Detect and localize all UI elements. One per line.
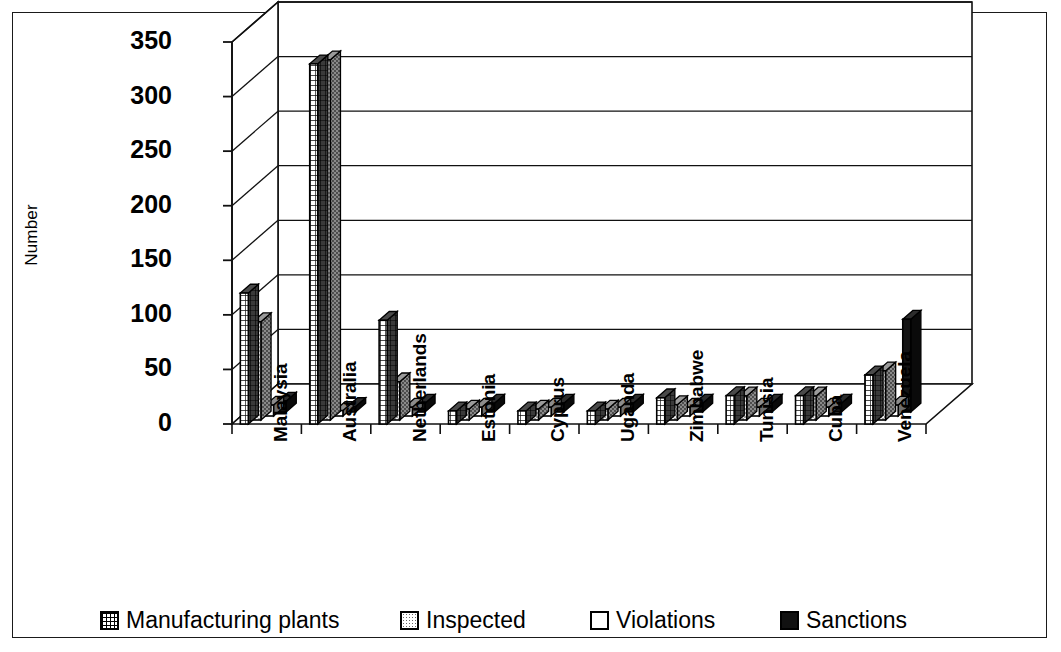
y-tick-label-250: 250 — [108, 137, 172, 162]
y-axis-title: Number — [22, 175, 42, 295]
chart-figure: 050100150200250300350 Number MalaysiaAus… — [0, 0, 1061, 652]
y-tick-label-0: 0 — [108, 410, 172, 435]
y-axis-ticks: 050100150200250300350 — [100, 0, 172, 652]
x-label-zimbabwe: Zimbabwe — [686, 350, 708, 442]
legend-swatch-black-icon — [780, 611, 799, 630]
y-axis-line — [223, 42, 232, 424]
legend-label: Manufacturing plants — [126, 609, 340, 632]
y-tick-label-100: 100 — [108, 301, 172, 326]
legend-item-sanctions[interactable]: Sanctions — [780, 604, 907, 636]
x-label-australia: Australia — [339, 362, 361, 442]
bar-manufacturing-plants-netherlands — [379, 312, 397, 424]
x-label-netherlands: Netherlands — [409, 333, 431, 442]
x-label-estonia: Estonia — [478, 374, 500, 442]
y-tick-label-300: 300 — [108, 83, 172, 108]
bar-manufacturing-plants-cuba — [796, 387, 814, 424]
x-label-cuba: Cuba — [825, 395, 847, 442]
y-tick-label-350: 350 — [108, 28, 172, 53]
y-tick-label-200: 200 — [108, 192, 172, 217]
y-tick-label-50: 50 — [108, 355, 172, 380]
bar-manufacturing-plants-tunisia — [726, 387, 744, 424]
x-label-tunisia: Tunisia — [756, 378, 778, 442]
legend-swatch-grid-icon — [100, 611, 119, 630]
legend-item-manufacturing-plants[interactable]: Manufacturing plants — [100, 604, 340, 636]
bar-manufacturing-plants-venezuela — [865, 366, 883, 424]
legend-label: Sanctions — [806, 609, 907, 632]
x-axis-ticks — [232, 424, 926, 434]
legend-label: Violations — [616, 609, 715, 632]
chart-legend: Manufacturing plantsInspectedViolationsS… — [100, 604, 960, 640]
legend-item-inspected[interactable]: Inspected — [400, 604, 526, 636]
x-label-cyprus: Cyprus — [547, 377, 569, 442]
x-label-malaysia: Malaysia — [270, 364, 292, 442]
bar-manufacturing-plants-malaysia — [240, 284, 258, 424]
legend-swatch-dots-icon — [400, 611, 419, 630]
legend-swatch-white-icon — [590, 611, 609, 630]
bar-manufacturing-plants-australia — [310, 55, 328, 424]
legend-label: Inspected — [426, 609, 526, 632]
y-tick-label-150: 150 — [108, 246, 172, 271]
x-label-uganda: Uganda — [617, 373, 639, 442]
x-label-venezuela: Venezuela — [894, 351, 916, 442]
legend-item-violations[interactable]: Violations — [590, 604, 715, 636]
